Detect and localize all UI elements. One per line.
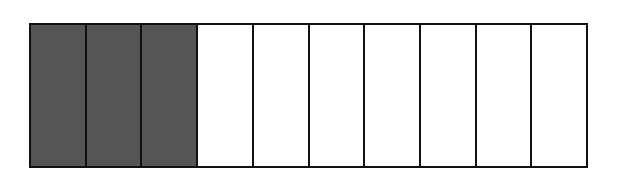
unshaded-segment bbox=[310, 25, 366, 166]
unshaded-segment bbox=[365, 25, 421, 166]
fraction-bar bbox=[29, 23, 588, 168]
unshaded-segment bbox=[254, 25, 310, 166]
shaded-segment bbox=[31, 25, 87, 166]
shaded-segment bbox=[87, 25, 143, 166]
unshaded-segment bbox=[421, 25, 477, 166]
unshaded-segment bbox=[198, 25, 254, 166]
unshaded-segment bbox=[532, 25, 586, 166]
unshaded-segment bbox=[477, 25, 533, 166]
shaded-segment bbox=[142, 25, 198, 166]
